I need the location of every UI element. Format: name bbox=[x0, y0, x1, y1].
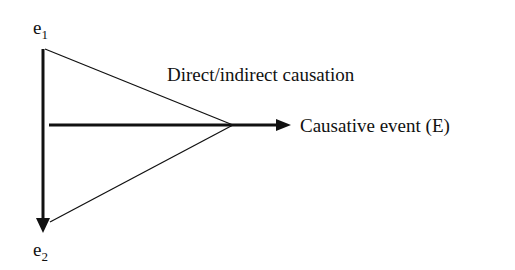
lower-triangle-edge bbox=[50, 125, 233, 222]
node-e1: e1 bbox=[33, 18, 48, 37]
right-arrowhead-icon bbox=[276, 119, 291, 131]
upper-triangle-edge bbox=[45, 49, 233, 125]
node-e1-subscript: 1 bbox=[41, 27, 48, 42]
relation-label: Direct/indirect causation bbox=[167, 65, 354, 84]
down-arrowhead-icon bbox=[36, 218, 50, 233]
result-label: Causative event (E) bbox=[300, 116, 450, 135]
node-e2: e2 bbox=[33, 240, 48, 259]
node-e2-subscript: 2 bbox=[41, 249, 48, 264]
